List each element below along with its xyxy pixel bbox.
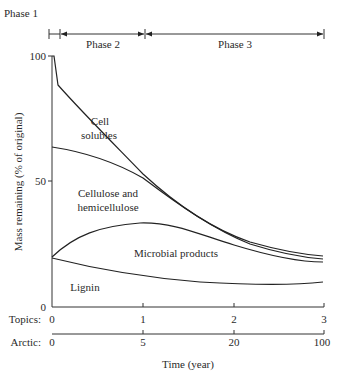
label-hemicellulose: hemicellulose (77, 201, 138, 213)
arctic-axis-name: Arctic: (10, 336, 41, 348)
arctic-tick-5: 5 (140, 336, 146, 348)
decomposition-chart: Phase 1 Phase 2 Phase 3 100 50 0 Mass re… (0, 0, 340, 382)
topics-tick-1: 1 (140, 313, 146, 325)
phase-bar: Phase 1 Phase 2 Phase 3 (4, 7, 324, 50)
y-tick-50: 50 (35, 175, 47, 187)
label-lignin: Lignin (70, 281, 100, 293)
topics-tick-0: 0 (49, 313, 55, 325)
label-microbial-products: Microbial products (134, 247, 218, 259)
phase3-label: Phase 3 (218, 38, 252, 50)
x-axis-label: Time (year) (162, 358, 214, 371)
arctic-tick-0: 0 (49, 336, 55, 348)
arctic-tick-20: 20 (229, 336, 241, 348)
topics-axis-name: Topics: (9, 313, 41, 325)
phase2-label: Phase 2 (86, 38, 120, 50)
topics-tick-2: 2 (231, 313, 237, 325)
arctic-tick-100: 100 (314, 336, 331, 348)
x-axis-topics: Topics: 0 1 2 3 (9, 303, 327, 325)
label-cell: Cell (91, 115, 109, 127)
label-solubles: solubles (81, 129, 117, 141)
y-axis: 100 50 0 Mass remaining (% of original) (12, 50, 52, 313)
y-tick-0: 0 (41, 301, 47, 313)
phase1-label: Phase 1 (4, 7, 38, 19)
label-cellulose: Cellulose and (78, 187, 139, 199)
y-tick-100: 100 (30, 50, 47, 62)
x-axis-arctic: Arctic: 0 5 20 100 Time (year) (10, 330, 330, 371)
y-axis-label: Mass remaining (% of original) (12, 112, 25, 251)
topics-tick-3: 3 (321, 313, 327, 325)
